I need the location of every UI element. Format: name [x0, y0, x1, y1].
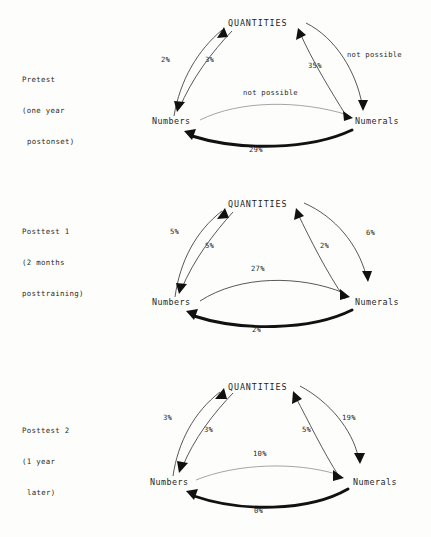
edge-numbers-to-quantities-path	[179, 31, 232, 109]
node-numbers: Numbers	[152, 116, 190, 126]
edge-label-quantities-to-numerals: 19%	[342, 413, 356, 422]
arrowhead-quantities-to-numerals	[354, 453, 365, 464]
edge-label-quantities-to-numbers: 5%	[170, 227, 180, 236]
edge-quantities-to-numerals-path	[304, 203, 366, 275]
edge-label-numerals-to-quantities: 35%	[308, 61, 322, 70]
arrowhead-numbers-to-quantities	[177, 461, 188, 473]
arrowhead-numbers-to-numerals	[343, 111, 353, 121]
edge-label-numerals-to-quantities: 5%	[302, 425, 312, 434]
edge-numbers-to-numerals-path	[200, 280, 344, 301]
edge-numerals-to-numbers-path	[194, 310, 352, 327]
panel-pretest: Pretest (one year postonset) QU	[0, 0, 431, 179]
edge-numerals-to-quantities-path	[300, 33, 347, 117]
arrowhead-quantities-to-numerals	[362, 271, 372, 282]
edge-label-quantities-to-numbers: 3%	[163, 413, 173, 422]
diagram-posttest-2: QUANTITIES Numbers Numerals 3% 3% 5% 19%…	[0, 358, 431, 537]
panel-posttest-2: Posttest 2 (1 year later) QUANT	[0, 358, 431, 537]
edge-label-numbers-to-quantities: 3%	[205, 55, 215, 64]
edge-label-numbers-to-quantities: 5%	[205, 241, 215, 250]
arrowhead-quantities-to-numerals	[358, 100, 368, 111]
node-numerals: Numerals	[355, 116, 399, 126]
edge-label-quantities-to-numbers: 2%	[161, 55, 171, 64]
arrowhead-numerals-to-numbers	[186, 489, 198, 500]
arrowhead-quantities-to-numbers	[215, 388, 227, 399]
arrowhead-numbers-to-quantities	[174, 101, 185, 112]
panel-posttest-1: Posttest 1 (2 months posttraining)	[0, 179, 431, 358]
node-numerals: Numerals	[355, 297, 399, 307]
arrowhead-numerals-to-quantities	[296, 28, 306, 40]
edge-label-quantities-to-numerals: not possible	[347, 50, 402, 59]
edge-label-numerals-to-numbers: 29%	[249, 145, 263, 154]
diagram-posttest-1: QUANTITIES Numbers Numerals 5% 5% 2% 6% …	[0, 179, 431, 358]
node-quantities: QUANTITIES	[228, 382, 287, 392]
edge-numerals-to-numbers-path	[194, 489, 348, 507]
diagram-pretest: QUANTITIES Numbers Numerals 2% 3% 35% no…	[0, 0, 431, 179]
edge-label-numerals-to-numbers: 0%	[254, 506, 264, 515]
edge-label-numbers-to-numerals: 10%	[253, 449, 267, 458]
edge-label-numerals-to-numbers: 2%	[252, 325, 262, 334]
arrowhead-numbers-to-numerals	[333, 470, 344, 481]
figure-canvas: Pretest (one year postonset) QU	[0, 0, 431, 537]
arrowhead-numbers-to-numerals	[340, 289, 350, 300]
edge-label-numbers-to-quantities: 3%	[204, 425, 214, 434]
arrowhead-numerals-to-quantities	[294, 208, 304, 220]
arrowhead-numerals-to-numbers	[186, 309, 198, 320]
node-numerals: Numerals	[353, 477, 397, 487]
edge-label-numbers-to-numerals: not possible	[243, 88, 298, 97]
edge-numbers-to-numerals-path	[200, 104, 348, 120]
node-quantities: QUANTITIES	[228, 18, 287, 28]
node-numbers: Numbers	[150, 477, 188, 487]
node-numbers: Numbers	[152, 297, 190, 307]
arrowhead-numerals-to-numbers	[184, 129, 196, 140]
edge-numerals-to-numbers-path	[192, 130, 352, 146]
node-quantities: QUANTITIES	[228, 199, 287, 209]
edge-label-quantities-to-numerals: 6%	[366, 228, 376, 237]
edge-numerals-to-quantities-path	[296, 398, 340, 478]
edge-numbers-to-numerals-path	[196, 466, 336, 480]
arrowhead-numbers-to-quantities	[176, 283, 187, 294]
arrowhead-numerals-to-quantities	[292, 391, 302, 404]
edge-label-numerals-to-quantities: 2%	[320, 241, 330, 250]
edge-label-numbers-to-numerals: 27%	[251, 264, 265, 273]
